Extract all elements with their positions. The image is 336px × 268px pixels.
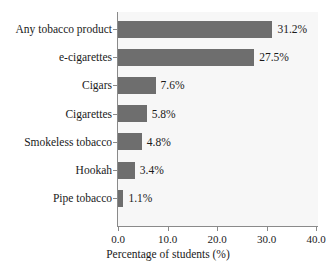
x-axis-title: Percentage of students (%) [0, 248, 336, 260]
bar [118, 133, 142, 150]
x-axis-tick [217, 227, 218, 231]
bar-value-label: 4.8% [142, 131, 171, 153]
x-axis-tick-label: 20.0 [197, 233, 237, 245]
category-label: e-cigarettes [0, 46, 112, 68]
y-axis-tick [113, 57, 117, 58]
x-axis-tick-label: 40.0 [296, 233, 336, 245]
bar-value-label: 31.2% [272, 18, 307, 40]
x-axis-tick [168, 227, 169, 231]
y-axis-tick [113, 142, 117, 143]
bar-row: Cigarettes5.8% [0, 103, 336, 125]
bar-row: Smokeless tobacco4.8% [0, 131, 336, 153]
bar-value-label: 27.5% [254, 46, 289, 68]
category-label: Pipe tobacco [0, 187, 112, 209]
y-axis-tick [113, 114, 117, 115]
bar [118, 162, 135, 179]
bar [118, 21, 272, 38]
x-axis-tick-label: 30.0 [247, 233, 287, 245]
y-axis-tick [113, 85, 117, 86]
bar-value-label: 7.6% [156, 74, 185, 96]
category-label: Cigars [0, 74, 112, 96]
bar-row: Cigars7.6% [0, 74, 336, 96]
bar [118, 77, 156, 94]
bar-value-label: 3.4% [135, 159, 164, 181]
bar-value-label: 1.1% [123, 187, 152, 209]
category-label: Smokeless tobacco [0, 131, 112, 153]
bar-row: Hookah3.4% [0, 159, 336, 181]
bar-row: Any tobacco product31.2% [0, 18, 336, 40]
bar-row: Pipe tobacco1.1% [0, 187, 336, 209]
bar [118, 49, 254, 66]
y-axis-tick [113, 198, 117, 199]
bar-chart: Any tobacco product31.2%e-cigarettes27.5… [0, 0, 336, 268]
x-axis-tick-label: 0.0 [98, 233, 138, 245]
bar-row: e-cigarettes27.5% [0, 46, 336, 68]
category-label: Any tobacco product [0, 18, 112, 40]
y-axis-tick [113, 170, 117, 171]
y-axis-tick [113, 29, 117, 30]
bar-value-label: 5.8% [147, 103, 176, 125]
x-axis-tick-label: 10.0 [148, 233, 188, 245]
category-label: Hookah [0, 159, 112, 181]
x-axis-tick [267, 227, 268, 231]
x-axis-tick [118, 227, 119, 231]
x-axis-tick [316, 227, 317, 231]
bar [118, 105, 147, 122]
category-label: Cigarettes [0, 103, 112, 125]
